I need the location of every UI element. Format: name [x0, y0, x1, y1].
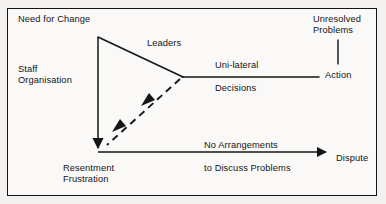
label-resentment-frustration: Resentment Frustration [63, 163, 114, 186]
label-unresolved-problems: Unresolved Problems [313, 14, 361, 37]
label-unilateral: Uni-lateral [215, 60, 258, 71]
edge-dashed-feedback [107, 79, 180, 145]
label-action: Action [325, 70, 351, 81]
label-need-for-change: Need for Change [18, 14, 90, 25]
label-staff-organisation: Staff Organisation [18, 64, 72, 87]
label-dispute: Dispute [336, 153, 368, 164]
label-no-arrangements: No Arrangements [204, 140, 278, 151]
diagram-canvas: Need for Change Staff Organisation Leade… [0, 0, 386, 204]
label-to-discuss-problems: to Discuss Problems [204, 163, 291, 174]
label-leaders: Leaders [147, 38, 181, 49]
label-decisions: Decisions [215, 83, 256, 94]
